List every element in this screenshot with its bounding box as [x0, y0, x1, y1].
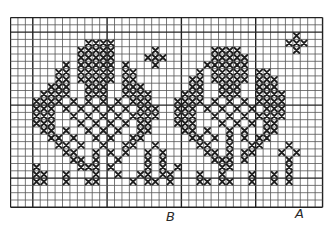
cross-stitch-mark [41, 172, 46, 177]
cross-stitch-mark [168, 179, 173, 184]
cross-stitch-mark [71, 99, 76, 104]
cross-stitch-mark [205, 106, 210, 111]
cross-stitch-mark [242, 128, 247, 133]
cross-stitch-mark [93, 179, 98, 184]
cross-stitch-mark [234, 77, 239, 82]
cross-stitch-mark [101, 70, 106, 75]
cross-stitch-mark [197, 172, 202, 177]
cross-stitch-mark [138, 121, 143, 126]
cross-stitch-mark [264, 135, 269, 140]
cross-stitch-mark [264, 113, 269, 118]
cross-stitch-mark [249, 106, 254, 111]
cross-stitch-mark [34, 121, 39, 126]
cross-stitch-mark [130, 77, 135, 82]
cross-stitch-mark [190, 77, 195, 82]
cross-stitch-mark [212, 77, 217, 82]
cross-stitch-mark [93, 62, 98, 67]
cross-stitch-mark [86, 84, 91, 89]
cross-stitch-mark [116, 113, 121, 118]
cross-stitch-mark [264, 121, 269, 126]
cross-stitch-mark [242, 55, 247, 60]
cross-stitch-mark [145, 157, 150, 162]
cross-stitch-mark [86, 128, 91, 133]
cross-stitch-mark [145, 113, 150, 118]
cross-stitch-mark [93, 48, 98, 53]
cross-stitch-mark [257, 77, 262, 82]
cross-stitch-mark [168, 172, 173, 177]
cross-stitch-mark [294, 33, 299, 38]
cross-stitch-mark [145, 92, 150, 97]
cross-stitch-mark [272, 179, 277, 184]
cross-stitch-mark [190, 113, 195, 118]
cross-stitch-mark [71, 113, 76, 118]
cross-stitch-mark [212, 135, 217, 140]
cross-stitch-mark [64, 70, 69, 75]
cross-stitch-mark [234, 55, 239, 60]
cross-stitch-mark [182, 92, 187, 97]
cross-stitch-mark [257, 135, 262, 140]
cross-stitch-mark [249, 172, 254, 177]
cross-stitch-mark [190, 99, 195, 104]
cross-stitch-mark [197, 70, 202, 75]
cross-stitch-mark [160, 172, 165, 177]
cross-stitch-mark [86, 92, 91, 97]
cross-stitch-mark [294, 40, 299, 45]
cross-stitch-mark [34, 106, 39, 111]
cross-stitch-mark [212, 113, 217, 118]
cross-stitch-mark [160, 165, 165, 170]
cross-stitch-mark [212, 150, 217, 155]
cross-stitch-mark [220, 121, 225, 126]
marker-label-a: A [295, 206, 304, 221]
cross-stitch-mark [220, 172, 225, 177]
cross-stitch-mark [227, 84, 232, 89]
cross-stitch-mark [182, 113, 187, 118]
cross-stitch-mark [108, 48, 113, 53]
cross-stitch-mark [197, 92, 202, 97]
cross-stitch-mark [71, 157, 76, 162]
cross-stitch-mark [49, 135, 54, 140]
cross-stitch-mark [123, 92, 128, 97]
cross-stitch-mark [249, 179, 254, 184]
cross-stitch-mark [123, 143, 128, 148]
cross-stitch-mark [78, 55, 83, 60]
cross-stitch-mark [227, 143, 232, 148]
cross-stitch-mark [272, 77, 277, 82]
cross-stitch-mark [190, 128, 195, 133]
cross-stitch-mark [49, 99, 54, 104]
cross-stitch-mark [86, 99, 91, 104]
cross-stitch-mark [41, 179, 46, 184]
cross-stitch-mark [220, 165, 225, 170]
cross-stitch-mark [123, 84, 128, 89]
cross-stitch-mark [249, 143, 254, 148]
cross-stitch-mark [64, 179, 69, 184]
cross-stitch-mark [212, 99, 217, 104]
cross-stitch-mark [205, 150, 210, 155]
cross-stitch-mark [108, 70, 113, 75]
cross-stitch-mark [205, 179, 210, 184]
cross-stitch-mark [257, 84, 262, 89]
cross-stitch-mark [153, 113, 158, 118]
cross-stitch-mark [197, 84, 202, 89]
cross-stitch-mark [101, 40, 106, 45]
cross-stitch-mark [101, 84, 106, 89]
cross-stitch-mark [56, 84, 61, 89]
cross-stitch-mark [286, 40, 291, 45]
cross-stitch-mark [93, 40, 98, 45]
cross-stitch-mark [279, 99, 284, 104]
cross-stitch-mark [286, 157, 291, 162]
cross-stitch-mark [49, 106, 54, 111]
cross-stitch-mark [64, 77, 69, 82]
cross-stitch-mark [264, 84, 269, 89]
cross-stitch-mark [93, 84, 98, 89]
cross-stitch-mark [93, 165, 98, 170]
cross-stitch-mark [108, 62, 113, 67]
cross-stitch-mark [272, 113, 277, 118]
cross-stitch-mark [272, 121, 277, 126]
cross-stitch-mark [86, 70, 91, 75]
cross-stitch-chart [10, 17, 325, 209]
cross-stitch-mark [190, 84, 195, 89]
cross-stitch-mark [249, 121, 254, 126]
cross-stitch-mark [272, 84, 277, 89]
cross-stitch-mark [227, 157, 232, 162]
cross-stitch-mark [138, 106, 143, 111]
